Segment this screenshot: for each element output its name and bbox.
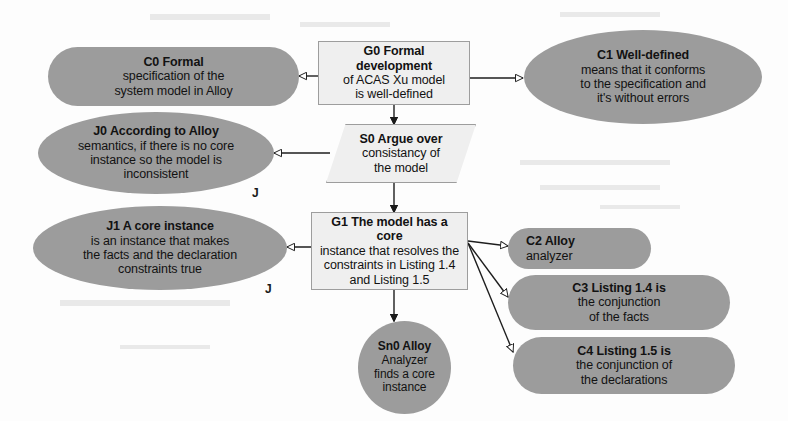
- node-c3-text: C3 Listing 1.4 is the conjunction of the…: [514, 281, 724, 324]
- node-g1[interactable]: G1 The model has a core instance that re…: [311, 212, 468, 290]
- node-g1-text: G1 The model has a core instance that re…: [318, 215, 461, 287]
- node-c4-text: C4 Listing 1.5 is the conjunction of the…: [519, 344, 729, 387]
- edge-g1-c2: [468, 241, 508, 246]
- node-c1-text: C1 Well-defined means that it conforms t…: [530, 48, 756, 106]
- node-c2[interactable]: C2 Alloy analyzer: [508, 228, 651, 269]
- node-sn0-text: Sn0 Alloy Analyzer finds a core instance: [364, 340, 445, 395]
- j-marker-1: J: [265, 282, 272, 296]
- edge-g1-c4: [468, 243, 513, 352]
- node-sn0[interactable]: Sn0 Alloy Analyzer finds a core instance: [358, 321, 451, 414]
- node-c3[interactable]: C3 Listing 1.4 is the conjunction of the…: [508, 275, 730, 330]
- diagram-canvas: C0 Formal specification of the system mo…: [0, 0, 788, 421]
- node-g0-text: G0 Formal development of ACAS Xu model i…: [325, 44, 463, 102]
- node-j1[interactable]: J1 A core instance is an instance that m…: [33, 206, 287, 290]
- node-g0[interactable]: G0 Formal development of ACAS Xu model i…: [318, 41, 470, 105]
- node-c1[interactable]: C1 Well-defined means that it conforms t…: [524, 30, 762, 124]
- node-c0[interactable]: C0 Formal specification of the system mo…: [48, 47, 299, 106]
- node-s0-text: S0 Argue over consistancy of the model: [332, 132, 470, 175]
- node-c0-text: C0 Formal specification of the system mo…: [54, 55, 293, 98]
- node-c4[interactable]: C4 Listing 1.5 is the conjunction of the…: [513, 337, 735, 394]
- node-j1-text: J1 A core instance is an instance that m…: [39, 219, 281, 277]
- node-j0[interactable]: J0 According to Alloy semantics, if ther…: [38, 112, 274, 194]
- node-c2-text: C2 Alloy analyzer: [526, 234, 645, 263]
- node-j0-text: J0 According to Alloy semantics, if ther…: [44, 124, 268, 182]
- j-marker-0: J: [252, 186, 259, 200]
- node-s0[interactable]: S0 Argue over consistancy of the model: [326, 124, 476, 183]
- edge-g1-c3: [468, 243, 508, 297]
